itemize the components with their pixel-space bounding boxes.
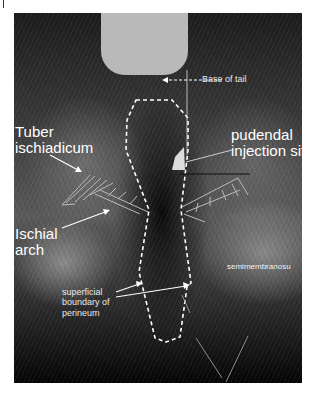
- label-superficial-boundary-of-perineum: superficial boundary of perineum: [62, 287, 110, 318]
- label-semimembranosus: semimembranosu: [227, 263, 291, 271]
- label-ischial-arch: Ischial arch: [15, 226, 58, 258]
- pudendal-pointer-line: [186, 150, 232, 162]
- label-line: injection sit: [231, 143, 305, 159]
- right-hatch: [182, 178, 248, 222]
- label-pudendal-injection-site: pudendal injection sit: [231, 127, 305, 159]
- injection-site-marker: [172, 147, 185, 170]
- perineum-arrow-right: [116, 286, 186, 297]
- left-hatch: [62, 175, 148, 214]
- label-line: Ischial: [15, 226, 58, 242]
- bottom-v-lines: [182, 295, 248, 382]
- perineum-arrow-left: [116, 284, 139, 292]
- arrowhead-icon: [103, 209, 110, 215]
- label-line: Tuber: [15, 124, 93, 140]
- label-line: boundary of: [62, 297, 110, 307]
- label-tuber-ischiadicum: Tuber ischiadicum: [15, 124, 93, 156]
- ischial-arch-arrow: [62, 212, 105, 228]
- arrowhead-icon: [162, 77, 168, 83]
- label-line: superficial: [62, 287, 110, 297]
- label-line: pudendal: [231, 127, 305, 143]
- label-line: arch: [15, 242, 58, 258]
- annotation-overlay: [0, 0, 316, 395]
- perineum-outline: [126, 100, 191, 342]
- tuber-arrow: [50, 155, 78, 170]
- label-line: ischiadicum: [15, 140, 93, 156]
- label-base-of-tail: Base of tail: [202, 75, 247, 84]
- label-line: perineum: [62, 308, 110, 318]
